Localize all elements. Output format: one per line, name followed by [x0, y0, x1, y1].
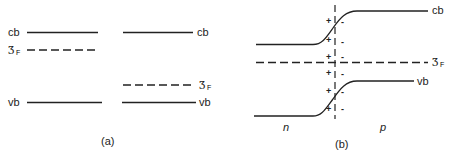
minus-icon: - — [341, 104, 344, 114]
caption-a: (a) — [101, 135, 114, 147]
valence-band-curve — [254, 81, 414, 116]
vb-label: vb — [417, 75, 429, 87]
plus-icon: + — [326, 16, 331, 26]
fermi-subscript: F — [16, 49, 20, 56]
cb-label: cb — [8, 26, 20, 38]
minus-icon: - — [341, 17, 344, 27]
band-diagram: cb Ʒ F vb cb Ʒ F vb (a) cb Ʒ F vb + + + … — [0, 0, 454, 156]
vb-label: vb — [199, 96, 211, 108]
plus-icon: + — [326, 68, 331, 78]
negative-charges: - - - - - - — [341, 17, 344, 114]
fermi-subscript: F — [207, 84, 211, 91]
fermi-symbol: Ʒ — [432, 56, 438, 69]
n-region-label: n — [283, 121, 289, 133]
minus-icon: - — [341, 87, 344, 97]
panel-a-left: cb Ʒ F vb — [8, 26, 102, 108]
plus-icon: + — [326, 52, 331, 62]
caption-b: (b) — [335, 138, 348, 150]
minus-icon: - — [341, 37, 344, 47]
p-region-label: p — [379, 121, 386, 133]
plus-icon: + — [326, 86, 331, 96]
panel-a-right: cb Ʒ F vb — [122, 26, 211, 108]
minus-icon: - — [341, 52, 344, 62]
plus-icon: + — [326, 104, 331, 114]
fermi-symbol: Ʒ — [8, 44, 14, 57]
fermi-subscript: F — [440, 61, 444, 68]
cb-label: cb — [432, 4, 444, 16]
cb-label: cb — [197, 26, 209, 38]
minus-icon: - — [341, 69, 344, 79]
vb-label: vb — [8, 96, 20, 108]
fermi-symbol: Ʒ — [199, 79, 205, 92]
plus-icon: + — [326, 35, 331, 45]
panel-b: cb Ʒ F vb + + + + + + - - - - - - n p — [254, 4, 444, 133]
